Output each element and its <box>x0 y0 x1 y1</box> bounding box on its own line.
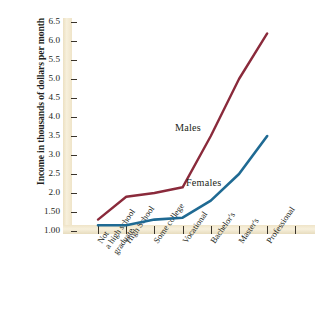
series-line-females <box>98 136 267 225</box>
plot-area <box>0 0 324 316</box>
income-by-education-line-chart: Income in thousands of dollars per month… <box>0 0 324 316</box>
series-label-females: Females <box>186 177 221 188</box>
series-label-males: Males <box>175 122 201 133</box>
